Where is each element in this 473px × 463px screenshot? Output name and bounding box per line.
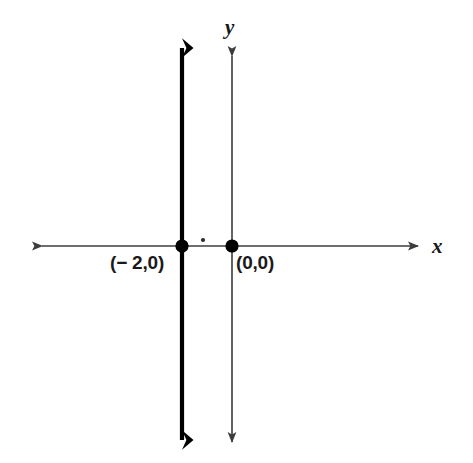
coordinate-plane-svg	[0, 0, 473, 463]
point-label-origin: (0,0)	[236, 252, 274, 274]
graph-figure: (− 2,0) (0,0) x y	[0, 0, 473, 463]
point-marker-origin	[225, 239, 238, 252]
point-marker-negative-2-0	[175, 239, 188, 252]
x-axis-label: x	[432, 234, 443, 259]
stray-dot-marker	[201, 238, 205, 242]
y-axis-label: y	[225, 15, 234, 40]
point-label-negative-2-0: (− 2,0)	[110, 252, 164, 274]
